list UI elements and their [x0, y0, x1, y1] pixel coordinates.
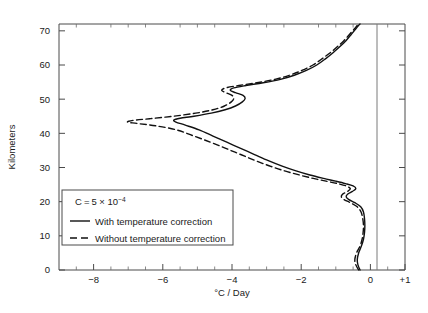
annotation-exponent: −4	[118, 196, 126, 203]
x-tick-label: −2	[296, 274, 307, 285]
annotation-symbol: C	[75, 196, 82, 207]
figure-background	[0, 0, 428, 313]
x-tick-label: +1	[400, 274, 411, 285]
legend-label-with-correction: With temperature correction	[95, 216, 212, 227]
annotation-equals: =	[84, 196, 90, 207]
x-tick-label: −4	[227, 274, 238, 285]
legend-label-without-correction: Without temperature correction	[95, 233, 225, 244]
annotation-value: 5 × 10	[91, 196, 118, 207]
y-tick-label: 0	[45, 264, 50, 275]
legend-box: C=5 × 10−4 With temperature correction W…	[62, 190, 233, 245]
y-tick-label: 20	[39, 196, 50, 207]
x-tick-label: 0	[368, 274, 373, 285]
y-tick-label: 30	[39, 162, 50, 173]
y-axis-label: Kilometers	[6, 124, 17, 169]
chart-figure: −8−6−4−20+1 010203040506070 °C / Day Kil…	[0, 0, 428, 313]
x-tick-label: −6	[157, 274, 168, 285]
y-tick-label: 10	[39, 230, 50, 241]
y-tick-label: 70	[39, 25, 50, 36]
y-tick-label: 40	[39, 128, 50, 139]
x-tick-label: −8	[88, 274, 99, 285]
y-tick-label: 50	[39, 94, 50, 105]
x-axis-label: °C / Day	[214, 287, 250, 298]
y-tick-label: 60	[39, 59, 50, 70]
